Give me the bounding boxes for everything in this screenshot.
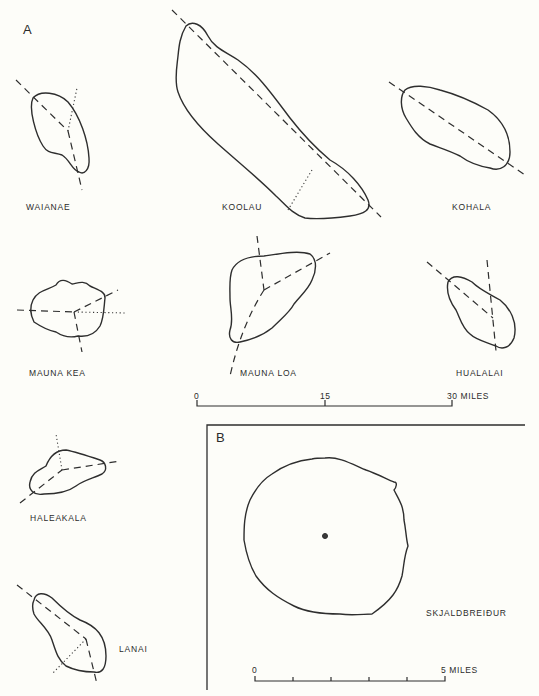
volcano-haleakala: HALEAKALA (20, 434, 120, 523)
lanai-rift-s (86, 639, 97, 684)
volcano-koolau: KOOLAU (172, 10, 381, 219)
mauna-kea-label: MAUNA KEA (29, 368, 86, 378)
mauna-kea-rift-s (74, 312, 82, 352)
haleakala-rift-sw (20, 470, 62, 503)
mauna-loa-label: MAUNA LOA (240, 368, 297, 378)
panel-b: B SKJALDBREIĐUR 0 5 MILES (207, 425, 525, 690)
waianae-outline (31, 93, 89, 173)
volcano-lanai: LANAI (17, 585, 148, 684)
panel-b-label: B (216, 430, 225, 445)
mauna-loa-rift-sw (230, 290, 264, 376)
waianae-rift-nw (16, 80, 68, 131)
waianae-rift-inferred (68, 88, 77, 131)
koolau-rift-inferred (288, 170, 312, 210)
panel-b-frame (207, 425, 525, 690)
kohala-outline (401, 86, 510, 169)
volcano-mauna-loa: MAUNA LOA (229, 236, 330, 378)
lanai-rift-nw (17, 585, 86, 639)
volcano-kohala: KOHALA (389, 82, 525, 212)
volcano-waianae: WAIANAE (16, 80, 89, 212)
waianae-rift-s (68, 131, 82, 190)
panel-a-label: A (23, 22, 32, 37)
hualalai-rift-n (487, 260, 496, 351)
volcano-hualalai: HUALALAI (427, 260, 515, 378)
volcano-mauna-kea: MAUNA KEA (17, 280, 127, 378)
lanai-label: LANAI (119, 644, 148, 654)
haleakala-outline (30, 450, 106, 494)
scale-a-tick-15: 15 (320, 391, 331, 401)
scale-b-tick-0: 0 (252, 665, 257, 675)
haleakala-label: HALEAKALA (30, 513, 87, 523)
scale-bar-b-line (255, 676, 445, 681)
volcano-outline-figure: A WAIANAE KOOLAU KOHALA MAUNA KEA MAUNA … (0, 0, 539, 696)
mauna-kea-rift-w (17, 310, 74, 312)
koolau-outline (176, 23, 369, 219)
kohala-label: KOHALA (452, 202, 491, 212)
mauna-kea-rift-ne (74, 290, 118, 312)
summit-crater-icon (323, 534, 328, 539)
mauna-kea-rift-inferred (74, 312, 127, 313)
scale-b-tick-5: 5 MILES (441, 665, 478, 675)
mauna-loa-rift-n (257, 236, 264, 290)
hualalai-label: HUALALAI (456, 368, 504, 378)
skjaldbreidur-label: SKJALDBREIĐUR (426, 608, 507, 618)
scale-a-tick-30: 30 MILES (447, 391, 489, 401)
mauna-kea-outline (31, 280, 105, 336)
koolau-label: KOOLAU (222, 202, 262, 212)
waianae-label: WAIANAE (26, 202, 71, 212)
scale-bar-a: 0 15 30 MILES (194, 391, 489, 406)
mauna-loa-rift-ne (264, 253, 330, 290)
lanai-rift-inferred (52, 639, 86, 674)
koolau-rift-main (172, 10, 381, 217)
haleakala-rift-e (62, 461, 120, 470)
mauna-loa-outline (229, 252, 315, 342)
scale-a-tick-0: 0 (194, 391, 199, 401)
lanai-outline (33, 594, 107, 673)
